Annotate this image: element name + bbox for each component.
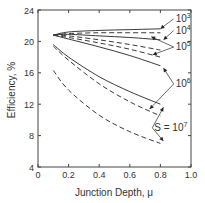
annotation-leader (150, 84, 174, 109)
curve-label: 106 (176, 77, 191, 89)
arrowhead-icon (163, 68, 167, 72)
x-tick-label: 0.8 (154, 170, 167, 180)
series-line (53, 35, 160, 66)
curve-label: 104 (176, 24, 191, 36)
series-line (53, 45, 160, 105)
curve-label: 103 (176, 12, 191, 24)
x-tick-label: 0.2 (62, 170, 75, 180)
efficiency-vs-junction-depth-chart: 00.20.40.60.81.04812162024 103104105106S… (0, 0, 205, 203)
curve-label: 105 (176, 40, 191, 52)
x-tick-label: 0.6 (124, 170, 137, 180)
x-tick-label: 1.0 (185, 170, 198, 180)
curve-labels: 103104105106S = 107 (150, 12, 191, 141)
y-axis-label: Efficiency, % (6, 62, 17, 118)
x-tick-label: 0.4 (93, 170, 106, 180)
series-curves (53, 29, 160, 144)
series-line (53, 70, 160, 143)
y-tick-label: 4 (29, 163, 34, 173)
y-tick-label: 12 (24, 100, 34, 110)
y-tick-label: 8 (29, 131, 34, 141)
x-axis-label: Junction Depth, μ (75, 187, 153, 198)
x-tick-label: 0 (35, 170, 40, 180)
y-tick-label: 24 (24, 6, 34, 16)
arrowhead-icon (160, 25, 164, 29)
y-tick-label: 16 (24, 68, 34, 78)
y-tick-label: 20 (24, 37, 34, 47)
axis-ticks: 00.20.40.60.81.04812162024 (24, 6, 197, 181)
curve-label: S = 107 (154, 121, 187, 133)
